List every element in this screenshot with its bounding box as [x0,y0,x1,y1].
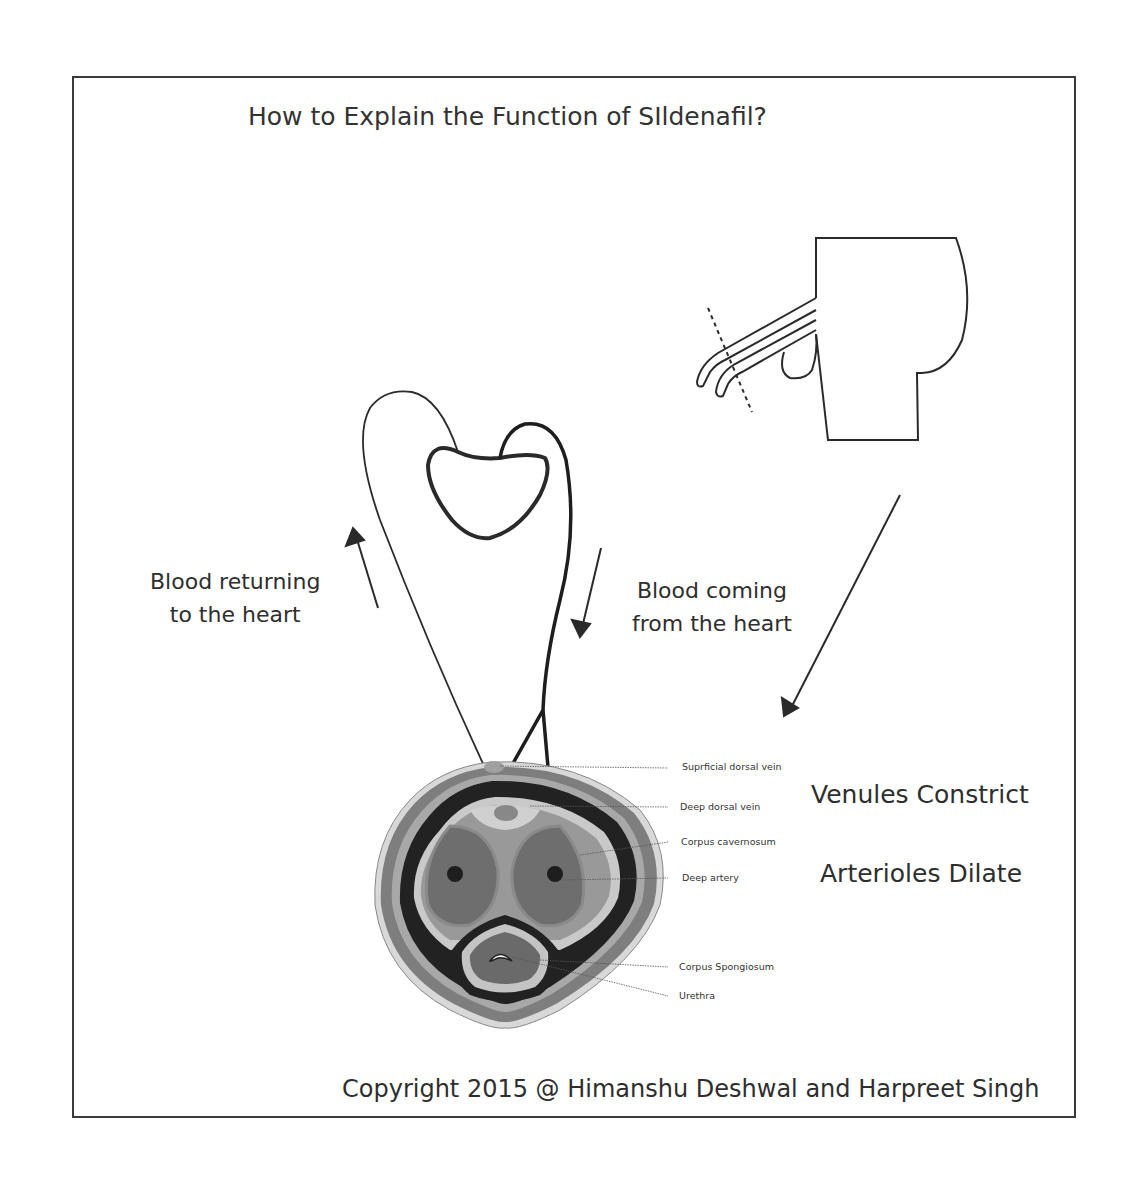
label-blood-coming: Blood coming from the heart [632,574,792,640]
anatomy-label-deep-artery: Deep artery [682,872,739,883]
anatomy-label-corpus-cavernosum: Corpus cavernosum [681,836,776,847]
anatomy-label-deep-dorsal-vein: Deep dorsal vein [680,801,760,812]
anatomy-label-superficial-dorsal-vein: Suprficial dorsal vein [682,761,782,772]
arrow-up-returning-icon [346,528,378,608]
heart-icon [428,448,548,538]
label-line: from the heart [632,607,792,640]
penile-cross-section [375,761,663,1028]
label-line: Blood coming [632,574,792,607]
arrow-down-coming-icon [572,548,601,637]
vein-loop-line [363,391,485,768]
anatomy-label-urethra: Urethra [679,990,715,1001]
label-arterioles-dilate: Arterioles Dilate [820,859,1022,888]
body-silhouette-icon [697,238,967,440]
label-line: Blood returning [150,565,320,598]
copyright-text: Copyright 2015 @ Himanshu Deshwal and Ha… [342,1075,1040,1103]
label-venules-constrict: Venules Constrict [811,780,1029,809]
label-blood-returning: Blood returning to the heart [150,565,320,631]
label-line: to the heart [150,598,320,631]
arrow-to-cross-section-icon [782,495,900,716]
anatomy-label-corpus-spongiosum: Corpus Spongiosum [679,961,774,972]
